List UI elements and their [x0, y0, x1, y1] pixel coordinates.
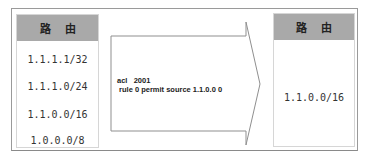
- acl-rule-text: acl 2001 rule 0 permit source 1.1.0.0 0: [117, 76, 222, 94]
- acl-line-2: rule 0 permit source 1.1.0.0 0: [117, 85, 222, 94]
- filtered-route-table: 路由 1.1.0.0/16: [273, 13, 355, 147]
- table-header: 路由: [274, 14, 354, 40]
- acl-line-1: acl 2001: [117, 76, 150, 85]
- route-entry: 1.1.0.0/16: [274, 92, 354, 103]
